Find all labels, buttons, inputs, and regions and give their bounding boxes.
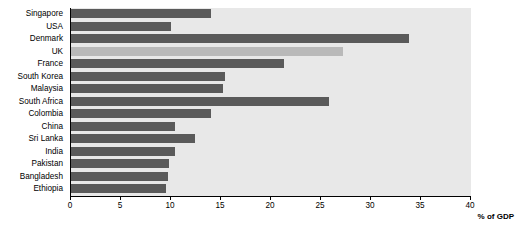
category-label: UK (0, 46, 66, 59)
x-axis-tick-label: 10 (165, 201, 174, 210)
x-axis-tick-label: 15 (215, 201, 224, 210)
category-label: USA (0, 21, 66, 34)
category-label: Sri Lanka (0, 133, 66, 146)
category-label: Pakistan (0, 158, 66, 171)
category-label: Bangladesh (0, 171, 66, 184)
bar-row (71, 8, 471, 21)
bar (71, 47, 343, 56)
category-label: Denmark (0, 33, 66, 46)
x-axis-tick (420, 196, 421, 200)
bar-row (71, 133, 471, 146)
bar (71, 147, 175, 156)
category-label: Malaysia (0, 83, 66, 96)
bar-row (71, 183, 471, 196)
x-axis-tick (220, 196, 221, 200)
bar-row (71, 171, 471, 184)
category-axis-labels: Singapore USA Denmark UK France South Ko… (0, 8, 66, 196)
x-axis: 0510152025303540 (70, 196, 470, 197)
category-label: Colombia (0, 108, 66, 121)
category-label: South Africa (0, 96, 66, 109)
bar-row (71, 83, 471, 96)
x-axis-tick-label: 40 (465, 201, 474, 210)
bar (71, 184, 166, 193)
bar-row (71, 58, 471, 71)
bar-row (71, 71, 471, 84)
category-label: Ethiopia (0, 183, 66, 196)
bar (71, 84, 223, 93)
x-axis-tick (270, 196, 271, 200)
bar (71, 109, 211, 118)
x-axis-tick-label: 30 (365, 201, 374, 210)
bar (71, 59, 284, 68)
category-label: South Korea (0, 71, 66, 84)
bar (71, 97, 329, 106)
bar-row (71, 33, 471, 46)
x-axis-tick (470, 196, 471, 200)
category-label: China (0, 121, 66, 134)
bar-row (71, 121, 471, 134)
bar-row (71, 108, 471, 121)
bar (71, 72, 225, 81)
bar (71, 122, 175, 131)
x-axis-tick (320, 196, 321, 200)
bar-row (71, 158, 471, 171)
bar-row (71, 46, 471, 59)
bar-row (71, 146, 471, 159)
bar-row (71, 96, 471, 109)
plot-area (70, 8, 471, 196)
bar (71, 9, 211, 18)
bar (71, 34, 409, 43)
bar (71, 22, 171, 31)
x-axis-tick (120, 196, 121, 200)
x-axis-tick-label: 20 (265, 201, 274, 210)
bar (71, 172, 168, 181)
x-axis-tick (370, 196, 371, 200)
x-axis-tick (70, 196, 71, 200)
category-label: Singapore (0, 8, 66, 21)
category-label: India (0, 146, 66, 159)
x-axis-tick-label: 5 (118, 201, 123, 210)
bar (71, 134, 195, 143)
x-axis-tick (170, 196, 171, 200)
x-axis-tick-label: 25 (315, 201, 324, 210)
x-axis-tick-label: 0 (68, 201, 73, 210)
x-axis-title: % of GDP (478, 212, 514, 221)
x-axis-tick-label: 35 (415, 201, 424, 210)
category-label: France (0, 58, 66, 71)
bar-row (71, 21, 471, 34)
bar-chart: Singapore USA Denmark UK France South Ko… (0, 0, 520, 239)
bar (71, 159, 169, 168)
